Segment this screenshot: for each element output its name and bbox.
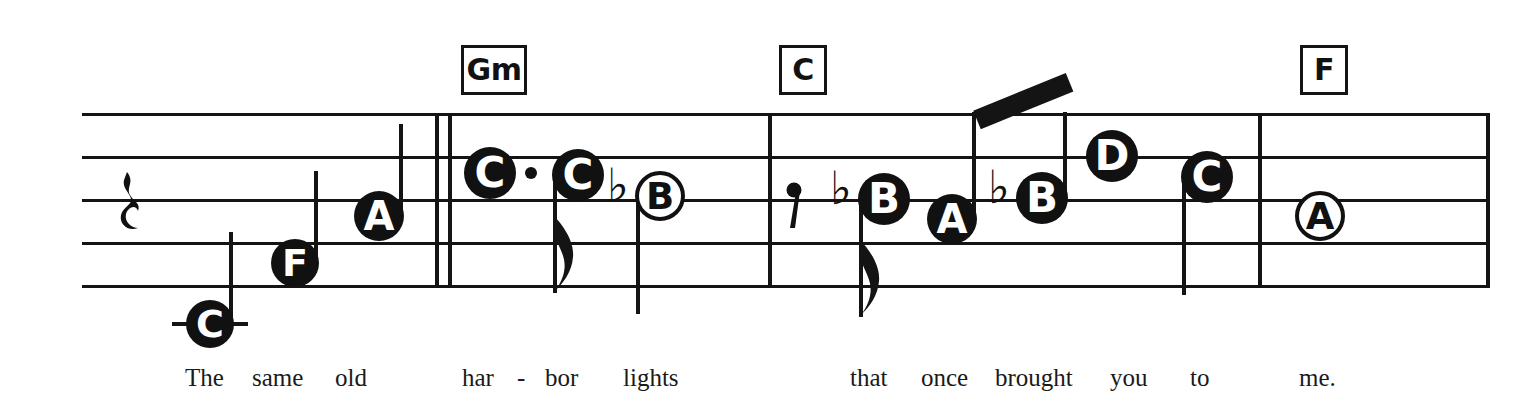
note-B-flat-half-stem (636, 196, 640, 314)
note-B-flat-half[interactable]: B (635, 171, 685, 221)
chord-symbol-c[interactable]: C (779, 45, 827, 95)
lyric-word: har (462, 365, 494, 390)
note-A-2-stem (972, 112, 976, 219)
staff-line-3 (82, 199, 1488, 202)
lyric-word: same (252, 365, 303, 390)
chord-symbol-label: C (792, 55, 814, 85)
note-B-flat-eighth[interactable]: B (858, 173, 910, 225)
lyric-word: you (1110, 365, 1148, 390)
sheet-music-canvas: GmCFCFACC♭B♭BA♭BDCAThesameoldhar-borligh… (0, 0, 1533, 402)
chord-symbol-gm[interactable]: Gm (461, 45, 527, 95)
lyric-word: lights (623, 365, 679, 390)
note-B-flat-eighth-flat-accidental: ♭ (830, 165, 852, 211)
note-pitch-label: A (364, 196, 395, 236)
note-C-2-stem (1182, 177, 1186, 295)
lyric-word: bor (545, 365, 578, 390)
barline-system-end (1486, 113, 1490, 288)
note-C-eighth-flag (553, 217, 587, 295)
staff-line-1 (82, 113, 1488, 116)
lyric-word: once (921, 365, 968, 390)
note-C-dotted-augmentation-dot (525, 167, 537, 179)
note-A-1[interactable]: A (354, 191, 404, 241)
note-pitch-label: F (282, 244, 308, 282)
note-pitch-label: A (1306, 198, 1335, 235)
barline-1-stroke-2 (448, 113, 452, 288)
note-A-hollow[interactable]: A (1295, 191, 1345, 241)
note-pitch-label: C (1192, 156, 1223, 198)
note-A-2[interactable]: A (927, 194, 977, 244)
note-pitch-label: C (475, 152, 506, 194)
staff-line-2 (82, 156, 1488, 159)
barline-measure-2-end (768, 113, 772, 288)
chord-symbol-label: Gm (467, 55, 522, 85)
lyric-word: to (1190, 365, 1209, 390)
note-pitch-label: B (868, 178, 900, 220)
note-C-dotted[interactable]: C (464, 147, 516, 199)
note-pitch-label: B (646, 178, 674, 215)
barline-measure-3-end (1258, 113, 1262, 288)
chord-symbol-label: F (1314, 55, 1334, 85)
note-B-flat-eighth-flag (859, 241, 893, 319)
lyric-word: The (185, 365, 224, 390)
lyric-word: that (850, 365, 888, 390)
lyric-word: brought (995, 365, 1073, 390)
lyric-word: old (335, 365, 367, 390)
lyric-word: - (517, 365, 525, 390)
note-pitch-label: C (196, 305, 224, 343)
note-F[interactable]: F (271, 239, 319, 287)
note-pitch-label: C (563, 154, 594, 196)
note-C-low[interactable]: C (186, 300, 234, 348)
note-B-flat-half-flat-accidental: ♭ (607, 162, 629, 208)
eighth-rest (786, 180, 814, 232)
note-D[interactable]: D (1086, 130, 1138, 182)
barline-1-stroke-1 (435, 113, 439, 288)
note-B-flat-beamed-flat-accidental: ♭ (988, 164, 1010, 210)
note-pitch-label: D (1095, 135, 1130, 177)
lyric-word: me. (1299, 365, 1336, 390)
note-C-eighth[interactable]: C (552, 149, 604, 201)
beam-A-to-Bflat (973, 73, 1074, 130)
note-pitch-label: A (937, 199, 968, 239)
note-C-2[interactable]: C (1181, 151, 1233, 203)
chord-symbol-f[interactable]: F (1300, 45, 1348, 95)
quarter-rest (118, 170, 148, 232)
note-pitch-label: B (1026, 177, 1058, 219)
note-B-flat-beamed[interactable]: B (1016, 172, 1068, 224)
